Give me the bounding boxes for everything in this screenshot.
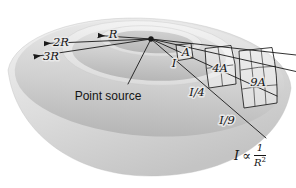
label-intensity-ninth: I/9: [218, 113, 235, 127]
formula-numerator: 1: [257, 143, 263, 154]
label-intensity-full: I: [171, 56, 177, 70]
formula-relation: ∝: [242, 148, 251, 163]
formula-lhs: I: [234, 148, 239, 163]
inverse-square-law-figure: R 2R 3R A 4A 9A I I/4 I/9 Point source I…: [0, 0, 296, 188]
label-radius-2r: 2R: [52, 35, 69, 49]
label-point-source: Point source: [75, 89, 142, 103]
label-intensity-quarter: I/4: [188, 85, 205, 99]
label-radius-r: R: [108, 27, 118, 41]
inverse-square-formula: I ∝ 1 R2: [234, 143, 266, 168]
formula-fraction: 1 R2: [254, 143, 266, 168]
label-area-4a: 4A: [211, 61, 228, 75]
formula-denominator-exponent: 2: [261, 156, 265, 164]
label-radius-3r: 3R: [43, 49, 59, 63]
point-source-dot: [148, 36, 153, 41]
label-area-9a: 9A: [250, 75, 266, 89]
formula-denominator: R2: [254, 157, 266, 169]
label-area-a: A: [181, 45, 190, 59]
